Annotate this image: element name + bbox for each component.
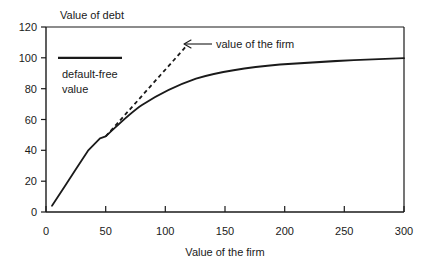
x-axis-ticks <box>46 206 404 212</box>
chart-title: Value of debt <box>60 9 124 21</box>
chart-figure: 120 100 80 60 40 20 0 0 50 100 150 200 2… <box>0 0 426 272</box>
y-tick-40: 40 <box>25 144 37 156</box>
x-tick-100: 100 <box>156 225 174 237</box>
y-tick-80: 80 <box>25 83 37 95</box>
x-tick-300: 300 <box>395 225 413 237</box>
default-free-value-label-line2: value <box>62 83 88 95</box>
chart-svg: 120 100 80 60 40 20 0 0 50 100 150 200 2… <box>0 0 426 272</box>
x-tick-50: 50 <box>100 225 112 237</box>
y-tick-20: 20 <box>25 175 37 187</box>
default-free-value-label-line1: default-free <box>62 68 118 80</box>
x-tick-0: 0 <box>43 225 49 237</box>
x-axis-title: Value of the firm <box>185 246 264 258</box>
y-tick-0: 0 <box>31 206 37 218</box>
x-tick-150: 150 <box>216 225 234 237</box>
y-tick-100: 100 <box>19 52 37 64</box>
y-tick-60: 60 <box>25 114 37 126</box>
y-axis-ticks <box>41 27 46 212</box>
x-axis-tick-labels: 0 50 100 150 200 250 300 <box>43 225 413 237</box>
x-tick-200: 200 <box>276 225 294 237</box>
callout-label: value of the firm <box>216 38 294 50</box>
y-axis-tick-labels: 120 100 80 60 40 20 0 <box>19 21 37 218</box>
y-tick-120: 120 <box>19 21 37 33</box>
x-tick-250: 250 <box>335 225 353 237</box>
value-of-debt-curve <box>52 58 404 206</box>
value-of-firm-dashed-line <box>106 46 186 136</box>
